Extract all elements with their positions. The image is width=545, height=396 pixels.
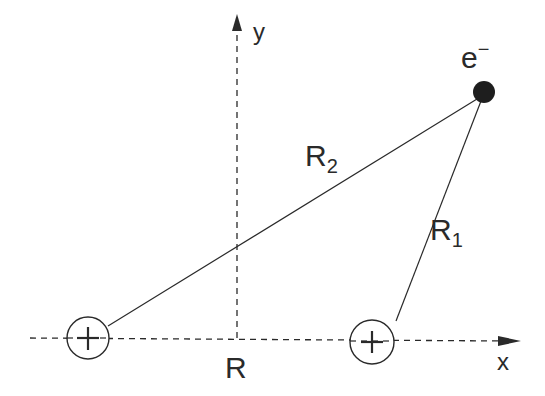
r2-subscript: 2 <box>327 155 338 177</box>
electron-charge: − <box>478 38 490 60</box>
electron-symbol: e <box>461 41 478 74</box>
r1-base: R <box>430 213 452 246</box>
r1-subscript: 1 <box>452 229 463 251</box>
r2-base: R <box>305 139 327 172</box>
x-axis-label: x <box>497 348 509 375</box>
electron-dot-icon <box>473 81 495 103</box>
y-axis <box>232 14 242 338</box>
r2-label: R2 <box>305 139 338 177</box>
r1-line <box>396 101 481 321</box>
electron-label: e− <box>461 38 489 74</box>
y-axis-arrow-icon <box>232 14 242 31</box>
r2-line <box>108 99 477 326</box>
diagram-canvas: y x R e− R2 R1 <box>0 0 545 396</box>
y-axis-label: y <box>253 18 265 45</box>
nucleus-left <box>67 317 109 359</box>
nucleus-right <box>350 320 394 364</box>
x-axis-arrow-icon <box>498 336 521 346</box>
origin-label: R <box>225 351 247 384</box>
r1-label: R1 <box>430 213 463 251</box>
